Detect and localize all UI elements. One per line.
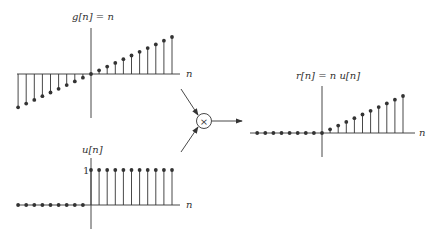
stem-dot bbox=[113, 61, 117, 65]
stem-dot bbox=[105, 168, 109, 172]
stem-dot bbox=[81, 76, 85, 80]
stem-dot bbox=[401, 94, 405, 98]
stem-dot bbox=[336, 124, 340, 128]
stem-dot bbox=[328, 127, 332, 131]
stem-dot bbox=[288, 131, 292, 135]
stem-dot bbox=[369, 109, 373, 113]
stem-dot bbox=[304, 131, 308, 135]
arrow-from-g bbox=[181, 89, 198, 115]
stem-dot bbox=[97, 168, 101, 172]
stem-dot bbox=[170, 35, 174, 39]
stem-dot bbox=[81, 203, 85, 207]
stem-dot bbox=[97, 68, 101, 72]
stem-dot bbox=[65, 203, 69, 207]
stem-dot bbox=[361, 113, 365, 117]
stem-dot bbox=[24, 102, 28, 106]
stem-dot bbox=[130, 54, 134, 58]
g-label: g[n] = n bbox=[72, 11, 114, 22]
plot-g: g[n] = n n bbox=[16, 11, 192, 118]
u-axis-label: n bbox=[186, 199, 192, 210]
stem-dot bbox=[32, 98, 36, 102]
stem-dot bbox=[162, 39, 166, 43]
stem-dot bbox=[49, 203, 53, 207]
stem-dot bbox=[138, 50, 142, 54]
g-stems bbox=[16, 35, 174, 109]
stem-dot bbox=[65, 83, 69, 87]
stem-dot bbox=[344, 120, 348, 124]
stem-dot bbox=[272, 131, 276, 135]
stem-dot bbox=[73, 203, 77, 207]
stem-dot bbox=[170, 168, 174, 172]
stem-dot bbox=[146, 46, 150, 50]
stem-dot bbox=[49, 91, 53, 95]
stem-dot bbox=[122, 57, 126, 61]
stem-dot bbox=[41, 203, 45, 207]
stem-dot bbox=[154, 168, 158, 172]
stem-dot bbox=[353, 116, 357, 120]
stem-dot bbox=[105, 65, 109, 69]
stem-dot bbox=[320, 131, 324, 135]
g-axis-label: n bbox=[186, 68, 192, 79]
stem-dot bbox=[385, 102, 389, 106]
stem-dot bbox=[162, 168, 166, 172]
stem-dot bbox=[113, 168, 117, 172]
stem-dot bbox=[393, 98, 397, 102]
stem-dot bbox=[73, 80, 77, 84]
u-tick-label-one: 1 bbox=[83, 165, 89, 176]
diagram-svg: g[n] = n n u[n] 1 n r[n] = n u[n] n × bbox=[0, 0, 442, 243]
stem-dot bbox=[89, 72, 93, 76]
stem-dot bbox=[57, 87, 61, 91]
stem-dot bbox=[122, 168, 126, 172]
stem-dot bbox=[138, 168, 142, 172]
stem-dot bbox=[154, 43, 158, 47]
u-stems bbox=[16, 168, 174, 207]
r-label: r[n] = n u[n] bbox=[296, 70, 360, 81]
r-stems bbox=[255, 94, 405, 135]
multiplier-block: × bbox=[181, 89, 242, 152]
stem-dot bbox=[146, 168, 150, 172]
stem-dot bbox=[89, 168, 93, 172]
stem-dot bbox=[130, 168, 134, 172]
stem-dot bbox=[377, 105, 381, 109]
plot-u: u[n] 1 n bbox=[16, 144, 192, 229]
u-label: u[n] bbox=[82, 144, 103, 155]
plot-r: r[n] = n u[n] n bbox=[250, 70, 425, 157]
stem-dot bbox=[296, 131, 300, 135]
stem-dot bbox=[312, 131, 316, 135]
stem-dot bbox=[263, 131, 267, 135]
signal-multiplication-diagram: g[n] = n n u[n] 1 n r[n] = n u[n] n × bbox=[0, 0, 442, 243]
stem-dot bbox=[32, 203, 36, 207]
stem-dot bbox=[280, 131, 284, 135]
stem-dot bbox=[255, 131, 259, 135]
stem-dot bbox=[24, 203, 28, 207]
stem-dot bbox=[16, 105, 20, 109]
stem-dot bbox=[16, 203, 20, 207]
arrow-from-u bbox=[181, 127, 198, 152]
r-axis-label: n bbox=[419, 127, 425, 138]
stem-dot bbox=[57, 203, 61, 207]
stem-dot bbox=[41, 94, 45, 98]
multiply-icon: × bbox=[200, 116, 208, 127]
